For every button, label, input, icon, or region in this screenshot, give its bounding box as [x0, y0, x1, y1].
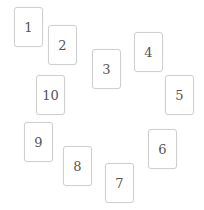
card-2[interactable]: 2 — [48, 25, 77, 65]
card-label: 7 — [115, 176, 123, 191]
card-3[interactable]: 3 — [92, 49, 121, 89]
card-8[interactable]: 8 — [63, 146, 92, 186]
card-6[interactable]: 6 — [148, 129, 177, 169]
card-label: 8 — [73, 159, 81, 174]
card-label: 6 — [158, 142, 166, 157]
card-label: 4 — [144, 45, 152, 60]
card-7[interactable]: 7 — [105, 163, 134, 203]
card-label: 1 — [24, 20, 32, 35]
card-label: 3 — [102, 62, 110, 77]
card-label: 9 — [34, 135, 42, 150]
card-label: 2 — [58, 38, 66, 53]
card-label: 10 — [42, 88, 59, 103]
card-5[interactable]: 5 — [165, 75, 194, 115]
card-1[interactable]: 1 — [14, 7, 43, 47]
card-label: 5 — [175, 88, 183, 103]
card-9[interactable]: 9 — [24, 122, 53, 162]
card-10[interactable]: 10 — [36, 75, 65, 115]
card-4[interactable]: 4 — [134, 32, 163, 72]
